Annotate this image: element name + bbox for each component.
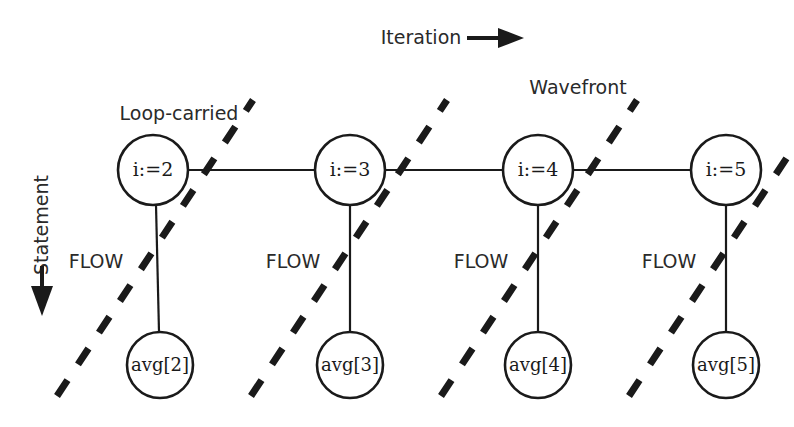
iteration-axis-label: Iteration: [381, 26, 462, 48]
flow-labels-group: FLOW FLOW FLOW FLOW: [69, 250, 697, 272]
flow-label-2: FLOW: [266, 250, 321, 272]
flow-label-4: FLOW: [642, 250, 697, 272]
statement-axis-group: Statement: [30, 175, 54, 316]
node-i5-label: i:=5: [706, 158, 747, 180]
node-avg5-label: avg[5]: [697, 354, 755, 375]
iteration-arrow-head-icon: [498, 28, 524, 48]
node-avg2-label: avg[2]: [131, 354, 189, 375]
wavefront-annotation: Wavefront: [529, 76, 626, 98]
node-avg3-label: avg[3]: [321, 354, 379, 375]
statement-arrow-head-icon: [31, 286, 53, 316]
flow-edges-group: [156, 205, 726, 332]
flow-label-1: FLOW: [69, 250, 124, 272]
diagram-canvas: i:=2 i:=3 i:=4 i:=5 avg[2] avg[3] avg[4]…: [0, 0, 794, 427]
node-avg4-label: avg[4]: [509, 354, 567, 375]
loop-carried-annotation: Loop-carried: [120, 102, 239, 124]
node-i4-label: i:=4: [518, 158, 559, 180]
wavefront-dependence-graph: i:=2 i:=3 i:=4 i:=5 avg[2] avg[3] avg[4]…: [0, 0, 794, 427]
node-i3-label: i:=3: [330, 158, 371, 180]
annotations-group: Loop-carried Wavefront: [120, 76, 627, 124]
node-i2-label: i:=2: [133, 158, 174, 180]
flow-label-3: FLOW: [454, 250, 509, 272]
iteration-axis-group: Iteration: [381, 26, 524, 49]
statement-axis-label: Statement: [30, 175, 52, 275]
edge-i2-avg2: [156, 205, 159, 332]
